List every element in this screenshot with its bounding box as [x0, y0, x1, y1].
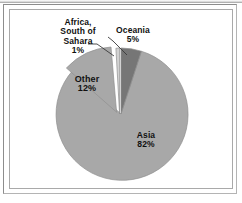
- slice-label-oceania-value: 5%: [104, 35, 162, 44]
- slice-label-other: Other 12%: [62, 65, 112, 104]
- slice-label-asia-value: 82%: [122, 140, 170, 149]
- slice-label-other-text: Other: [75, 74, 100, 84]
- slice-label-oceania: Oceania 5%: [104, 17, 162, 54]
- pie-slice-africa-south-of-sahara[interactable]: [116, 48, 120, 114]
- slice-label-africa-text: Africa, South of Sahara: [60, 17, 95, 45]
- pie-chart: Africa, South of Sahara 1% Oceania 5% Ot…: [0, 0, 242, 203]
- slice-label-other-value: 12%: [62, 84, 112, 94]
- slice-label-asia: Asia 82%: [122, 122, 170, 159]
